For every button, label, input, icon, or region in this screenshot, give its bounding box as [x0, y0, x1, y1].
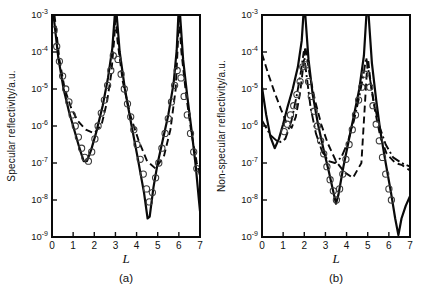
reflectivity-plots-canvas: 10-310-410-510-610-710-810-90123456710-3…	[0, 0, 422, 298]
x-tick-label: 7	[407, 240, 413, 251]
x-tick-label: 6	[386, 240, 392, 251]
y-tick-label: 10-9	[31, 230, 48, 242]
y-tick-label: 10-9	[241, 230, 258, 242]
y-axis-label-b: Non-specular reflectivity/a.u.	[216, 60, 227, 192]
panel-caption-a: (a)	[119, 272, 133, 284]
y-tick-label: 10-6	[31, 119, 48, 131]
y-axis-label-a: Specular reflectivity/a.u.	[6, 70, 17, 181]
y-tick-label: 10-3	[31, 8, 48, 20]
y-tick-label: 10-4	[241, 45, 258, 57]
x-tick-label: 5	[365, 240, 371, 251]
x-tick-label: 0	[259, 240, 265, 251]
x-tick-label: 2	[92, 240, 98, 251]
panel-caption-b: (b)	[329, 272, 343, 284]
x-tick-label: 6	[176, 240, 182, 251]
x-tick-label: 0	[49, 240, 55, 251]
b-experimental-circles-marker	[287, 112, 293, 118]
b-model-dashed-curve	[262, 47, 410, 178]
y-tick-label: 10-8	[31, 193, 48, 205]
y-tick-label: 10-7	[241, 156, 258, 168]
panel-b: 10-310-410-510-610-710-810-901234567	[241, 8, 413, 251]
x-axis-label-b: L	[332, 251, 339, 267]
y-tick-label: 10-8	[241, 193, 258, 205]
x-tick-label: 2	[302, 240, 308, 251]
x-tick-label: 3	[113, 240, 119, 251]
x-tick-label: 4	[344, 240, 350, 251]
y-tick-label: 10-6	[241, 119, 258, 131]
panel-a: 10-310-410-510-610-710-810-901234567	[31, 8, 203, 251]
y-tick-label: 10-4	[31, 45, 48, 57]
y-tick-label: 10-5	[241, 82, 258, 94]
x-tick-label: 1	[70, 240, 76, 251]
reflectivity-figure: 10-310-410-510-610-710-810-90123456710-3…	[0, 0, 422, 298]
a-experimental-circles-marker	[178, 75, 184, 81]
x-tick-label: 5	[155, 240, 161, 251]
x-axis-label-a: L	[122, 251, 129, 267]
x-tick-label: 4	[134, 240, 140, 251]
x-tick-label: 3	[323, 240, 329, 251]
y-tick-label: 10-7	[31, 156, 48, 168]
b-model-dashdot-curve	[262, 52, 410, 167]
x-tick-label: 7	[197, 240, 203, 251]
y-tick-label: 10-5	[31, 82, 48, 94]
y-tick-label: 10-3	[241, 8, 258, 20]
x-tick-label: 1	[280, 240, 286, 251]
